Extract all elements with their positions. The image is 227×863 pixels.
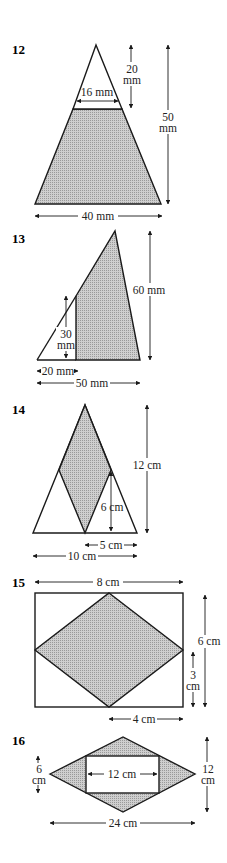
rect-width-label: 12 cm bbox=[108, 768, 136, 780]
problem-13: 13 30 mm 60 mm 20 mm 50 mm bbox=[12, 231, 166, 389]
left-width-label: 20 mm bbox=[42, 365, 74, 377]
problem-number: 13 bbox=[12, 231, 26, 246]
rect-height-unit: cm bbox=[32, 774, 46, 786]
cut-width-label: 16 mm bbox=[81, 86, 113, 98]
problem-number: 15 bbox=[12, 575, 26, 590]
shaded-trapezium bbox=[35, 109, 161, 204]
top-height-unit: mm bbox=[123, 74, 141, 86]
inner-height-label: 6 cm bbox=[101, 501, 124, 513]
top-triangle bbox=[73, 45, 122, 109]
problem-number: 14 bbox=[12, 402, 26, 417]
problem-number: 12 bbox=[12, 42, 25, 57]
half-base-label: 5 cm bbox=[100, 539, 123, 551]
width-label: 8 cm bbox=[97, 576, 120, 588]
problem-number: 16 bbox=[12, 733, 26, 748]
problem-12: 12 16 mm 20 mm 50 mm 40 mm bbox=[12, 42, 178, 222]
height-label: 12 cm bbox=[133, 459, 161, 471]
shaded-region bbox=[76, 231, 140, 360]
problem-14: 14 6 cm 12 cm 5 cm 10 cm bbox=[12, 402, 164, 562]
base-label: 10 cm bbox=[68, 550, 96, 562]
width-label: 24 cm bbox=[109, 817, 137, 829]
problem-16: 16 12 cm 6 cm 12 cm 24 cm bbox=[12, 733, 218, 829]
half-width-label: 4 cm bbox=[133, 713, 156, 725]
problem-15: 15 8 cm 6 cm 3 cm 4 cm bbox=[12, 575, 224, 725]
height-unit: cm bbox=[201, 774, 215, 786]
worksheet-diagrams: 12 16 mm 20 mm 50 mm 40 mm 13 30 mm 60 m… bbox=[0, 0, 227, 863]
half-height-unit: cm bbox=[186, 680, 200, 692]
height-label: 60 mm bbox=[133, 284, 165, 296]
base-label: 50 mm bbox=[76, 377, 108, 389]
height-label: 6 cm bbox=[198, 635, 221, 647]
cut-height-unit: mm bbox=[57, 339, 75, 351]
total-height-unit: mm bbox=[159, 122, 177, 134]
base-label: 40 mm bbox=[82, 210, 114, 222]
